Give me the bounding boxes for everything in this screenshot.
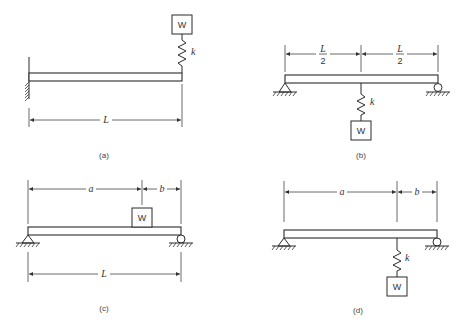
simply-supported-beam <box>28 227 181 235</box>
spring-icon <box>178 34 186 73</box>
weight-label: W <box>138 213 147 223</box>
panel-caption: (a) <box>99 151 109 160</box>
fixed-wall-icon <box>25 57 29 101</box>
panel-caption: (d) <box>353 306 363 315</box>
panel-b: k W L 2 L 2 (b) <box>273 43 450 160</box>
spring-icon <box>393 238 401 277</box>
weight-label: W <box>357 126 366 136</box>
panel-a: k W L (a) <box>25 15 196 160</box>
dimension-label: L <box>100 268 107 279</box>
pin-support-icon <box>273 83 297 96</box>
spring-label: k <box>405 252 410 263</box>
dim-b-label: b <box>160 183 165 194</box>
dim-a-label: a <box>340 186 345 197</box>
dimension-half-spans <box>285 45 438 72</box>
dimension-a-b <box>28 180 181 224</box>
weight-label: W <box>393 282 402 292</box>
roller-support-icon <box>425 238 449 250</box>
panel-caption: (c) <box>99 304 109 313</box>
weight-label: W <box>178 20 187 30</box>
dim-left-numerator: L <box>319 43 326 54</box>
panel-d: k W a b (d) <box>272 181 449 315</box>
dim-a-label: a <box>89 183 94 194</box>
pin-support-icon <box>16 235 40 247</box>
simply-supported-beam <box>285 75 438 83</box>
dim-b-label: b <box>415 186 420 197</box>
spring-label: k <box>191 46 196 57</box>
roller-support-icon <box>169 235 193 247</box>
dim-right-denominator: 2 <box>397 56 402 66</box>
dim-left-denominator: 2 <box>320 56 325 66</box>
simply-supported-beam <box>284 230 437 238</box>
spring-label: k <box>370 96 375 107</box>
roller-support-icon <box>426 84 450 97</box>
pin-support-icon <box>272 238 296 250</box>
panel-caption: (b) <box>356 151 366 160</box>
spring-icon <box>357 83 365 121</box>
cantilever-beam <box>29 73 182 81</box>
panel-c: W a b L (c) <box>16 180 193 313</box>
dim-right-numerator: L <box>396 43 403 54</box>
dimension-label: L <box>102 114 109 125</box>
beam-figure: k W L (a) <box>0 0 466 329</box>
